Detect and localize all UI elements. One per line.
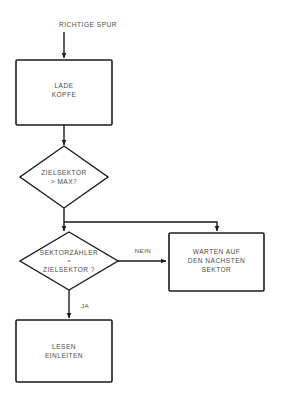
- flowchart-canvas: RICHTIGE SPUR LADE KÖPFE ZIELSEKTOR > MA…: [0, 0, 281, 407]
- node-warten-line1: WARTEN AUF: [193, 248, 240, 255]
- node-zielsektor-max-line1: ZIELSEKTOR: [41, 169, 86, 176]
- connector-zielsektor-max-to-warten: [64, 222, 217, 231]
- node-lesen-einleiten-line1: LESEN: [52, 343, 76, 350]
- entry-label: RICHTIGE SPUR: [59, 21, 117, 28]
- flowchart-svg: RICHTIGE SPUR LADE KÖPFE ZIELSEKTOR > MA…: [0, 0, 281, 407]
- node-zielsektor-max-line2: > MAX?: [51, 178, 77, 185]
- edge-label-nein: NEIN: [135, 247, 152, 254]
- node-sektorzaehler-line3: ZIELSEKTOR ?: [43, 266, 95, 273]
- node-lade-koepfe-line2: KÖPFE: [52, 91, 77, 98]
- node-warten-line2: DEN NÄCHSTEN: [188, 257, 245, 264]
- node-lade-koepfe-line1: LADE: [54, 82, 73, 89]
- node-lesen-einleiten-line2: EINLEITEN: [45, 352, 83, 359]
- edge-label-ja: JA: [81, 302, 90, 309]
- node-sektorzaehler-line1: SEKTORZÄHLER: [40, 249, 98, 256]
- node-sektorzaehler-line2: =: [67, 258, 70, 264]
- node-warten-line3: SEKTOR: [202, 266, 232, 273]
